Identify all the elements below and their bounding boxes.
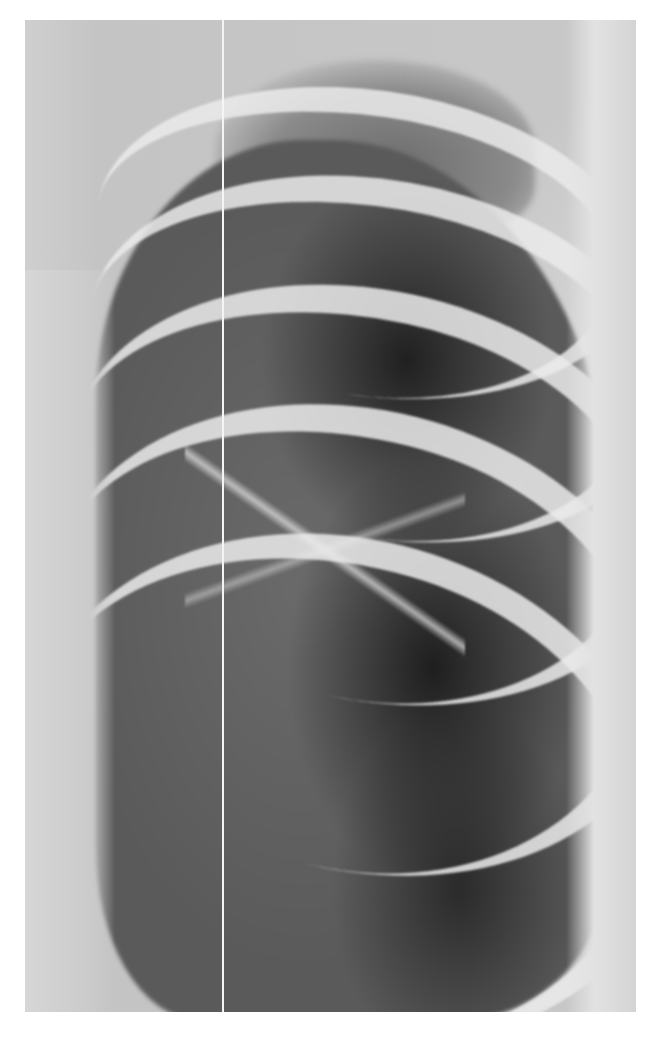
mediastinum-shadow: [25, 270, 115, 1012]
line-artifact: [222, 20, 224, 1012]
xray-image: [25, 20, 636, 1012]
chest-wall: [566, 20, 636, 1012]
